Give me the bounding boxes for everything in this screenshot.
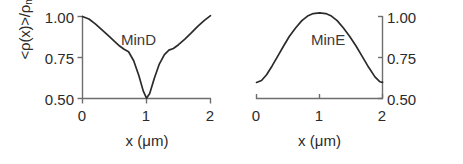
chart-panel-mind: <ρ(x)>/ρmax 1.00 0.75 0.50 0 1 2 x (μm) … xyxy=(0,0,232,164)
mine-ytick-label-3: 0.50 xyxy=(387,92,433,107)
figure-root: <ρ(x)>/ρmax 1.00 0.75 0.50 0 1 2 x (μm) … xyxy=(0,0,463,164)
mine-ytick-label-1: 1.00 xyxy=(387,10,433,25)
mind-y-axis-label-subscript: max xyxy=(23,0,34,5)
mine-x-axis-label: x (μm) xyxy=(256,132,383,149)
mine-xtick-label-1: 1 xyxy=(307,108,331,123)
mind-x-axis-label: x (μm) xyxy=(82,132,212,149)
mind-xtick-label-1: 1 xyxy=(134,108,158,123)
mind-xtick-label-0: 0 xyxy=(70,108,94,123)
mine-xtick-label-2: 2 xyxy=(370,108,394,123)
mind-series-annotation: MinD xyxy=(121,31,156,48)
mine-series-annotation: MinE xyxy=(311,31,345,48)
mine-xtick-label-0: 0 xyxy=(244,108,268,123)
mind-ytick-label-1: 1.00 xyxy=(30,10,74,25)
chart-panel-mine: 1.00 0.75 0.50 0 1 2 x (μm) MinE xyxy=(232,0,463,164)
mind-xtick-label-2: 2 xyxy=(198,108,222,123)
mind-ytick-label-3: 0.50 xyxy=(30,92,74,107)
mine-ytick-label-2: 0.75 xyxy=(387,51,433,66)
mind-data-curve xyxy=(83,16,211,98)
mind-ytick-label-2: 0.75 xyxy=(30,51,74,66)
